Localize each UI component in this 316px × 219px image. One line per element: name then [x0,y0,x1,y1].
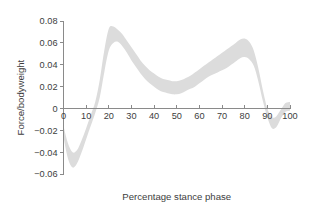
x-tick-label: 70 [217,111,227,121]
y-tick-label: −0.02 [34,126,57,136]
y-axis-ticks: −0.06−0.04−0.0200.020.040.060.08 [34,16,63,179]
y-tick-label: −0.04 [34,148,57,158]
y-tick-label: 0.08 [40,16,58,26]
y-axis-title: Force/bodyweight [15,59,26,135]
y-tick-label: −0.06 [34,169,57,179]
y-tick-label: 0.06 [40,38,58,48]
x-tick-label: 20 [104,111,114,121]
y-tick-label: 0.02 [40,82,58,92]
x-tick-label: 10 [81,111,91,121]
confidence-band-path [64,26,291,168]
force-bodyweight-chart-figure: −0.06−0.04−0.0200.020.040.060.08 0102030… [0,0,316,219]
x-axis-title: Percentage stance phase [122,191,231,202]
x-tick-label: 100 [282,111,297,121]
x-tick-label: 30 [126,111,136,121]
chart-plot-area: −0.06−0.04−0.0200.020.040.060.08 0102030… [0,0,316,219]
x-tick-label: 50 [172,111,182,121]
x-tick-label: 60 [194,111,204,121]
x-tick-label: 0 [61,111,66,121]
x-tick-label: 90 [262,111,272,121]
x-tick-label: 80 [240,111,250,121]
y-tick-label: 0 [52,104,57,114]
confidence-band [64,26,291,168]
y-tick-label: 0.04 [40,60,58,70]
x-tick-label: 40 [149,111,159,121]
